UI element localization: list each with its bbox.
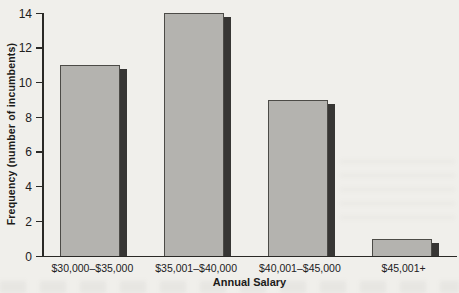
bar-shadow	[328, 104, 335, 256]
y-tick	[36, 221, 42, 222]
bar	[268, 100, 328, 256]
y-tick-label: 6	[0, 146, 32, 158]
bar-shadow	[432, 243, 439, 256]
bar	[60, 65, 120, 256]
y-tick	[36, 186, 42, 187]
x-tick-label: $30,000–$35,000	[52, 262, 134, 274]
y-tick	[36, 47, 42, 48]
bar	[164, 13, 224, 256]
y-tick-label: 10	[0, 77, 32, 89]
bar-shadow	[224, 17, 231, 256]
y-tick	[36, 117, 42, 118]
y-tick-label: 12	[0, 42, 32, 54]
y-tick	[36, 151, 42, 152]
y-axis-title: Frequency (number of incumbents)	[5, 43, 17, 226]
y-tick-label: 2	[0, 216, 32, 228]
y-tick-label: 8	[0, 112, 32, 124]
x-tick-label: $45,001+	[382, 262, 426, 274]
x-axis-title: Annual Salary	[42, 276, 457, 288]
bar	[372, 239, 432, 256]
y-tick	[36, 256, 42, 257]
y-tick-label: 4	[0, 181, 32, 193]
y-tick	[36, 13, 42, 14]
y-tick-label: 14	[0, 8, 32, 20]
y-tick	[36, 82, 42, 83]
bar-chart-figure: Frequency (number of incumbents) 0246810…	[0, 0, 459, 293]
x-tick-label: $35,001–$40,000	[155, 262, 237, 274]
bar-shadow	[120, 69, 127, 256]
y-axis-line	[42, 13, 44, 256]
paper-bleed-artifact	[340, 160, 455, 230]
y-tick-label: 0	[0, 251, 32, 263]
x-tick-label: $40,001–$45,000	[259, 262, 341, 274]
